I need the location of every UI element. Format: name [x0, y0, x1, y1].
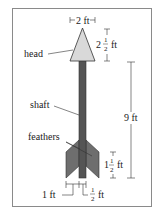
feathers-label: feathers — [28, 131, 60, 142]
shaft-label: shaft — [30, 99, 50, 110]
feather-width-label: 1 ft — [42, 189, 56, 200]
bottom-dimensions — [62, 181, 88, 195]
shaft-leader-line — [54, 106, 79, 115]
shaft-length-label: 9 ft — [124, 112, 138, 123]
head-height-unit: ft — [111, 39, 117, 50]
shaft-width-num: 1 — [91, 186, 95, 194]
shaft-graphic — [79, 60, 86, 178]
head-height-den: 2 — [104, 45, 108, 53]
feather-height-den: 2 — [110, 166, 114, 174]
head-height-whole: 2 — [96, 39, 101, 50]
head-label: head — [24, 48, 43, 59]
head-leader-line — [48, 50, 73, 54]
head-height-num: 1 — [104, 36, 108, 44]
shaft-width-den: 2 — [91, 195, 95, 203]
head-graphic — [70, 28, 95, 61]
feather-height-unit: ft — [117, 159, 123, 170]
feather-height-num: 1 — [110, 157, 114, 165]
shaft-width-unit: ft — [98, 189, 104, 200]
head-width-label: 2 ft — [76, 15, 90, 26]
arrow-diagram: 2 ft 2 1 2 ft 9 ft 1 1 2 ft 1 — [0, 0, 164, 218]
feather-height-whole: 1 — [104, 159, 109, 170]
